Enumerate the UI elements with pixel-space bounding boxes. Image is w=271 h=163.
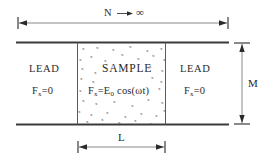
disorder-x-mark: x	[82, 46, 85, 51]
disorder-x-mark: x	[86, 119, 89, 124]
disorder-x-mark: x	[137, 56, 140, 61]
disorder-x-mark: x	[101, 117, 104, 122]
disorder-x-mark: x	[104, 58, 107, 63]
disorder-x-mark: x	[90, 54, 93, 59]
disorder-x-mark: x	[129, 44, 132, 49]
disorder-x-mark: x	[121, 52, 124, 57]
height-dimension-label: M	[248, 78, 258, 89]
disorder-x-mark: x	[150, 121, 153, 126]
right-lead-field-formula: Fx=0	[184, 86, 205, 98]
disorder-x-mark: x	[155, 113, 158, 118]
sample-field-equals: =E	[98, 85, 111, 96]
disorder-x-mark: x	[163, 108, 166, 113]
disorder-x-mark: x	[160, 46, 163, 51]
disorder-x-mark: x	[131, 103, 134, 108]
disorder-x-mark: x	[147, 97, 150, 102]
disorder-x-mark: x	[81, 66, 84, 71]
left-lead-field-formula: Fx=0	[32, 86, 53, 98]
infinity-symbol: ∞	[136, 7, 144, 18]
n-dimension-arrow	[18, 17, 228, 29]
disorder-x-mark: x	[146, 48, 149, 53]
disorder-x-mark: x	[90, 112, 93, 117]
disorder-x-mark: x	[82, 98, 85, 103]
disorder-x-mark: x	[113, 99, 116, 104]
disorder-x-mark: x	[161, 100, 164, 105]
disorder-x-mark: x	[92, 79, 95, 84]
disorder-x-mark: x	[151, 75, 154, 80]
disorder-x-mark: x	[112, 47, 115, 52]
sample-length-dimension-label: L	[118, 132, 125, 143]
disorder-x-mark: x	[158, 86, 161, 91]
left-lead-field-value: =0	[42, 85, 54, 96]
sample-field-formula: Fx=E0 cos(ωt)	[88, 86, 149, 98]
n-limit-label: N	[104, 8, 112, 19]
disorder-x-mark: x	[106, 110, 109, 115]
disorder-x-mark: x	[160, 79, 163, 84]
disorder-x-mark: x	[94, 70, 97, 75]
left-lead-title: LEAD	[29, 64, 59, 75]
disorder-x-mark: x	[80, 76, 83, 81]
disorder-x-mark: x	[134, 118, 137, 123]
sample-title: SAMPLE	[102, 63, 152, 75]
right-lead-field-value: =0	[194, 85, 206, 96]
disorder-x-mark: x	[95, 101, 98, 106]
disorder-x-mark: x	[124, 114, 127, 119]
disorder-x-mark: x	[79, 88, 82, 93]
disorder-x-mark: x	[152, 53, 155, 58]
disorder-x-mark: x	[161, 68, 164, 73]
sample-field-tail: cos(ωt)	[114, 85, 149, 96]
disorder-x-mark: x	[96, 45, 99, 50]
device-schematic-figure: infinity) ===== --> N ∞ LEAD Fx=0 SAMPLE…	[0, 0, 271, 163]
n-limit-arrow-icon	[117, 11, 133, 16]
disorder-x-mark: x	[140, 111, 143, 116]
disorder-x-mark: x	[78, 109, 81, 114]
disorder-x-mark: x	[79, 57, 82, 62]
schematic-lines: infinity) ===== -->	[0, 0, 271, 163]
disorder-x-mark: x	[149, 64, 152, 69]
disorder-x-mark: x	[118, 120, 121, 125]
right-lead-title: LEAD	[180, 64, 210, 75]
disorder-x-mark: x	[163, 57, 166, 62]
